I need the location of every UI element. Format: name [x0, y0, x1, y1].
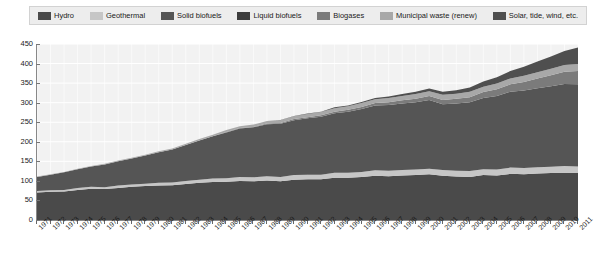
legend-item-municipal_waste[interactable]: Municipal waste (renew)	[380, 11, 477, 20]
x-axis-tick-mark	[401, 221, 402, 224]
x-axis-tick-label: 2011	[578, 215, 594, 231]
y-axis-tick-label: 150	[3, 157, 33, 165]
y-axis-tick-mark	[36, 161, 40, 162]
x-axis-tick-mark	[550, 221, 551, 224]
x-axis-tick-mark	[455, 221, 456, 224]
x-axis-tick-mark	[482, 221, 483, 224]
x-axis-tick-mark	[131, 221, 132, 224]
x-axis-tick-mark	[171, 221, 172, 224]
x-axis-tick-mark	[469, 221, 470, 224]
x-axis-tick-mark	[90, 221, 91, 224]
legend-item-hydro[interactable]: Hydro	[38, 11, 74, 20]
x-axis-tick-mark	[577, 221, 578, 224]
legend-swatch-icon-biogases	[317, 12, 330, 20]
x-axis-tick-mark	[36, 221, 37, 224]
x-axis-tick-mark	[117, 221, 118, 224]
x-axis-tick-mark	[225, 221, 226, 224]
x-axis-tick-mark	[266, 221, 267, 224]
x-axis-tick-mark	[563, 221, 564, 224]
y-axis: 050100150200250300350400450	[0, 40, 33, 226]
legend-swatch-icon-municipal_waste	[380, 12, 393, 20]
x-axis-tick-mark	[388, 221, 389, 224]
x-axis-tick-mark	[50, 221, 51, 224]
chart-legend: HydroGeothermalSolid biofuelsLiquid biof…	[29, 6, 587, 25]
legend-label-solar_tide_wind: Solar, tide, wind, etc.	[509, 11, 578, 20]
legend-label-liquid_biofuels: Liquid biofuels	[253, 11, 301, 20]
x-axis-tick-mark	[198, 221, 199, 224]
x-axis-tick-mark	[252, 221, 253, 224]
x-axis-tick-mark	[536, 221, 537, 224]
y-axis-tick-mark	[36, 181, 40, 182]
y-axis-tick-mark	[36, 64, 40, 65]
legend-label-municipal_waste: Municipal waste (renew)	[396, 11, 477, 20]
x-axis-tick-mark	[361, 221, 362, 224]
y-axis-tick-mark	[36, 103, 40, 104]
y-axis-tick-mark	[36, 200, 40, 201]
legend-swatch-icon-liquid_biofuels	[237, 12, 250, 20]
legend-label-hydro: Hydro	[54, 11, 74, 20]
x-axis-tick-mark	[104, 221, 105, 224]
x-axis-tick-mark	[239, 221, 240, 224]
legend-label-biogases: Biogases	[333, 11, 364, 20]
legend-item-solid_biofuels[interactable]: Solid biofuels	[161, 11, 222, 20]
x-axis-tick-mark	[293, 221, 294, 224]
x-axis-tick-mark	[320, 221, 321, 224]
x-axis-tick-mark	[442, 221, 443, 224]
y-axis-tick-label: 100	[3, 177, 33, 185]
x-axis: 1971197219731974197519761977197819791980…	[0, 221, 594, 261]
x-axis-tick-mark	[496, 221, 497, 224]
x-axis-tick-mark	[428, 221, 429, 224]
legend-item-liquid_biofuels[interactable]: Liquid biofuels	[237, 11, 301, 20]
legend-label-solid_biofuels: Solid biofuels	[177, 11, 222, 20]
y-axis-tick-label: 300	[3, 99, 33, 107]
x-axis-tick-mark	[158, 221, 159, 224]
x-axis-tick-mark	[63, 221, 64, 224]
plot-area	[36, 44, 578, 221]
y-axis-tick-label: 200	[3, 138, 33, 146]
x-axis-tick-mark	[334, 221, 335, 224]
y-axis-tick-label: 250	[3, 118, 33, 126]
y-axis-tick-label: 400	[3, 60, 33, 68]
legend-item-biogases[interactable]: Biogases	[317, 11, 364, 20]
x-axis-tick-mark	[415, 221, 416, 224]
legend-swatch-icon-geothermal	[90, 12, 103, 20]
legend-item-solar_tide_wind[interactable]: Solar, tide, wind, etc.	[493, 11, 578, 20]
y-axis-tick-mark	[36, 44, 40, 45]
x-axis-tick-mark	[347, 221, 348, 224]
y-axis-tick-mark	[36, 122, 40, 123]
stacked-area-svg	[37, 44, 578, 220]
x-axis-tick-mark	[212, 221, 213, 224]
x-axis-tick-mark	[509, 221, 510, 224]
x-axis-tick-mark	[279, 221, 280, 224]
y-axis-tick-label: 350	[3, 79, 33, 87]
y-axis-tick-mark	[36, 142, 40, 143]
x-axis-tick-mark	[374, 221, 375, 224]
chart-page: HydroGeothermalSolid biofuelsLiquid biof…	[0, 0, 594, 261]
legend-swatch-icon-solar_tide_wind	[493, 12, 506, 20]
x-axis-tick-mark	[307, 221, 308, 224]
legend-swatch-icon-solid_biofuels	[161, 12, 174, 20]
legend-swatch-icon-hydro	[38, 12, 51, 20]
legend-item-geothermal[interactable]: Geothermal	[90, 11, 145, 20]
x-axis-tick-mark	[144, 221, 145, 224]
y-axis-tick-mark	[36, 83, 40, 84]
x-axis-tick-mark	[523, 221, 524, 224]
legend-label-geothermal: Geothermal	[106, 11, 145, 20]
y-axis-tick-label: 50	[3, 196, 33, 204]
x-axis-tick-mark	[77, 221, 78, 224]
x-axis-tick-mark	[185, 221, 186, 224]
y-axis-tick-label: 450	[3, 40, 33, 48]
